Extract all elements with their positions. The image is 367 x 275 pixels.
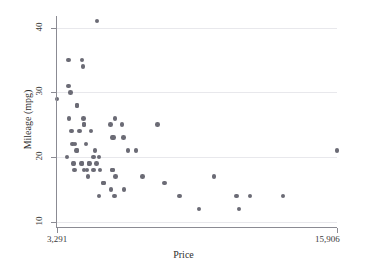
data-point — [91, 168, 96, 173]
data-point — [66, 58, 71, 63]
data-point — [69, 129, 74, 134]
y-tick-10 — [51, 222, 56, 223]
data-point — [248, 194, 253, 199]
data-point — [112, 194, 117, 199]
y-tick-30 — [51, 92, 56, 93]
gridline-y-30 — [57, 92, 337, 93]
data-point — [89, 129, 94, 134]
data-point — [97, 194, 102, 199]
data-point — [66, 84, 71, 89]
y-tick-label-10: 10 — [34, 210, 44, 232]
data-point — [91, 155, 96, 160]
data-point — [113, 174, 118, 179]
data-point — [237, 207, 242, 212]
data-point — [94, 161, 99, 166]
data-point — [81, 116, 86, 121]
data-point — [65, 155, 70, 160]
y-tick-40 — [51, 28, 56, 29]
data-point — [87, 161, 92, 166]
data-point — [73, 142, 78, 147]
data-point — [212, 174, 217, 179]
data-point — [82, 122, 87, 127]
data-point — [197, 207, 202, 212]
data-point — [162, 181, 167, 186]
data-point — [120, 122, 125, 127]
data-point — [109, 187, 114, 192]
data-point — [75, 103, 80, 108]
plot-area — [57, 16, 337, 227]
data-point — [121, 135, 126, 140]
x-axis-title: Price — [0, 249, 367, 260]
data-point — [97, 155, 102, 160]
data-point — [85, 168, 90, 173]
data-point — [110, 168, 115, 173]
data-point — [86, 174, 91, 179]
data-point — [72, 168, 77, 173]
data-point — [93, 148, 98, 153]
data-point — [101, 181, 106, 186]
data-point — [77, 129, 82, 134]
data-point — [68, 90, 73, 95]
data-point — [234, 194, 239, 199]
data-point — [67, 116, 72, 121]
gridline-y-10 — [57, 222, 337, 223]
data-point — [140, 174, 145, 179]
x-axis-line — [56, 227, 337, 228]
data-point — [281, 194, 286, 199]
data-point — [111, 135, 116, 140]
data-point — [108, 122, 113, 127]
y-tick-label-20: 20 — [34, 145, 44, 167]
data-point — [134, 148, 139, 153]
data-point — [155, 122, 160, 127]
data-point — [75, 148, 80, 153]
data-point — [177, 194, 182, 199]
x-tick-0 — [57, 228, 58, 233]
y-tick-20 — [51, 157, 56, 158]
data-point — [95, 19, 100, 24]
data-point — [335, 148, 340, 153]
scatter-plot-figure: 10203040 3,29115,906 Mileage (mpg) Price — [0, 0, 367, 275]
y-tick-label-40: 40 — [34, 16, 44, 38]
y-tick-label-30: 30 — [34, 80, 44, 102]
data-point — [80, 161, 85, 166]
data-point — [113, 116, 118, 121]
data-point — [122, 187, 127, 192]
x-tick-1 — [337, 228, 338, 233]
y-axis-title: Mileage (mpg) — [22, 60, 33, 180]
data-point — [126, 148, 131, 153]
data-point — [84, 142, 89, 147]
data-point — [98, 168, 103, 173]
data-point — [72, 161, 77, 166]
x-tick-label-0: 3,291 — [47, 234, 67, 244]
data-point — [81, 64, 86, 69]
data-point — [80, 58, 85, 63]
x-tick-label-1: 15,906 — [315, 234, 340, 244]
gridline-y-40 — [57, 28, 337, 29]
y-axis-line — [56, 16, 57, 228]
